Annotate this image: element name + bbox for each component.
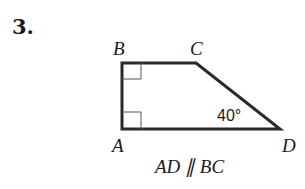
vertex-label-a: A [112,135,124,157]
right-angle-mark-a [122,112,141,129]
vertex-label-b: B [113,38,125,60]
vertex-label-c: C [190,38,203,60]
trapezoid-abcd [122,63,280,129]
trapezoid-figure [0,0,305,189]
vertex-label-d: D [282,135,296,157]
angle-label-d: 40° [217,107,241,125]
parallel-caption: AD ∥ BC [155,155,224,178]
right-angle-mark-b [122,63,141,79]
